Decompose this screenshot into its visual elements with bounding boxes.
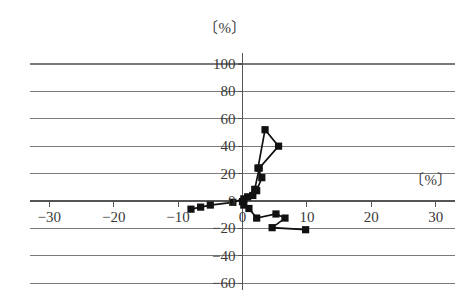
data-point-marker <box>275 143 282 150</box>
data-point-marker <box>281 214 288 221</box>
data-point-marker <box>258 174 265 181</box>
y-tick-label: 80 <box>221 83 236 100</box>
y-tick-label: −40 <box>212 247 235 264</box>
x-tick-label: −10 <box>166 209 189 226</box>
x-tick-label: 0 <box>239 209 247 226</box>
x-tick-label: 30 <box>428 209 443 226</box>
data-point-marker <box>245 205 252 212</box>
data-point-marker <box>256 164 263 171</box>
data-point-marker <box>302 226 309 233</box>
data-point-marker <box>269 224 276 231</box>
y-tick-label: 60 <box>221 110 236 127</box>
x-axis-unit-label: 〔%〕 <box>409 168 453 189</box>
y-tick-label: 0 <box>228 192 236 209</box>
y-tick-label: 100 <box>213 55 236 72</box>
data-point-marker <box>251 186 258 193</box>
y-tick-label: −60 <box>212 275 235 292</box>
y-tick-label: 20 <box>221 165 236 182</box>
chart-container: 〔%〕 〔%〕 100806040200−20−40−60 −30−20−100… <box>0 0 475 308</box>
y-axis-unit-label: 〔%〕 <box>203 16 247 37</box>
data-series <box>187 126 309 233</box>
data-point-marker <box>272 210 279 217</box>
y-tick-label: −20 <box>212 220 235 237</box>
data-point-marker <box>197 204 204 211</box>
x-tick-label: −20 <box>102 209 125 226</box>
data-point-marker <box>207 201 214 208</box>
x-tick-label: 10 <box>299 209 314 226</box>
plot-area <box>0 0 475 308</box>
x-tick-label: −30 <box>38 209 61 226</box>
y-tick-label: 40 <box>221 138 236 155</box>
data-point-marker <box>253 214 260 221</box>
data-point-marker <box>261 126 268 133</box>
x-tick-label: 20 <box>364 209 379 226</box>
